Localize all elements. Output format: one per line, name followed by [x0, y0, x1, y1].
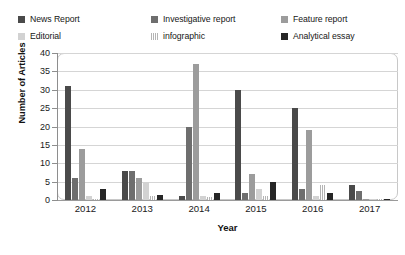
x-axis-tick-label: 2012 — [57, 203, 114, 219]
x-axis-tick-label: 2017 — [341, 203, 398, 219]
bar[interactable] — [122, 171, 128, 200]
bar[interactable] — [157, 195, 163, 201]
y-axis-tick-label: 15 — [6, 140, 50, 150]
legend-label-news-report: News Report — [30, 15, 80, 24]
legend-swatch-investigative-report — [151, 16, 158, 23]
bar[interactable] — [100, 189, 106, 200]
y-axis-tick-label: 25 — [6, 103, 50, 113]
bar-group — [114, 53, 171, 200]
bar[interactable] — [349, 185, 355, 200]
legend-item-infographic[interactable]: infographic — [151, 32, 281, 41]
y-axis-tick — [52, 53, 57, 54]
bar[interactable] — [370, 199, 376, 200]
x-axis-tick-label: 2014 — [171, 203, 228, 219]
bar[interactable] — [320, 185, 326, 200]
legend-item-editorial[interactable]: Editorial — [18, 32, 151, 41]
legend-swatch-infographic — [151, 33, 158, 40]
bar[interactable] — [72, 178, 78, 200]
y-axis-tick — [52, 108, 57, 109]
legend-label-analytical-essay: Analytical essay — [293, 32, 355, 41]
y-axis-tick-label: 0 — [6, 195, 50, 205]
legend-label-editorial: Editorial — [30, 32, 61, 41]
y-axis-tick-label: 20 — [6, 122, 50, 132]
bar[interactable] — [249, 174, 255, 200]
y-axis-title: Number of Articles — [17, 13, 27, 153]
x-axis-tick-label: 2013 — [114, 203, 171, 219]
chart-legend: News Report Investigative report Feature… — [18, 11, 396, 45]
bar[interactable] — [150, 196, 156, 200]
bar[interactable] — [214, 193, 220, 200]
bar[interactable] — [327, 193, 333, 200]
legend-item-feature-report[interactable]: Feature report — [281, 15, 396, 24]
bar-group — [171, 53, 228, 200]
bar[interactable] — [306, 130, 312, 200]
legend-label-investigative-report: Investigative report — [163, 15, 235, 24]
bar[interactable] — [256, 189, 262, 200]
bar-group — [57, 53, 114, 200]
y-axis-tick-label: 30 — [6, 85, 50, 95]
gridline — [57, 200, 398, 201]
y-axis-tick-label: 5 — [6, 177, 50, 187]
bar[interactable] — [384, 199, 390, 200]
legend-label-feature-report: Feature report — [293, 15, 347, 24]
legend-item-analytical-essay[interactable]: Analytical essay — [281, 32, 396, 41]
x-axis-tick-label: 2016 — [284, 203, 341, 219]
y-axis-tick — [52, 71, 57, 72]
bar[interactable] — [143, 182, 149, 200]
x-axis-tick-label: 2015 — [227, 203, 284, 219]
y-axis-tick — [52, 200, 57, 201]
bar[interactable] — [79, 149, 85, 200]
bar[interactable] — [299, 189, 305, 200]
legend-swatch-analytical-essay — [281, 33, 288, 40]
bar-group — [284, 53, 341, 200]
bar[interactable] — [242, 193, 248, 200]
y-axis-tick — [52, 127, 57, 128]
y-axis-tick-label: 10 — [6, 158, 50, 168]
y-axis-tick — [52, 90, 57, 91]
legend-label-infographic: infographic — [163, 32, 205, 41]
y-axis-tick — [52, 163, 57, 164]
y-axis-tick-label: 35 — [6, 66, 50, 76]
bar-group — [341, 53, 398, 200]
x-axis-tick-labels: 201220132014201520162017 — [57, 203, 398, 219]
bar[interactable] — [136, 178, 142, 200]
bar[interactable] — [356, 191, 362, 200]
x-axis-title: Year — [57, 222, 398, 233]
bar[interactable] — [292, 108, 298, 200]
bar[interactable] — [263, 196, 269, 200]
bar[interactable] — [65, 86, 71, 200]
y-axis-tick — [52, 145, 57, 146]
bar[interactable] — [235, 90, 241, 200]
legend-swatch-feature-report — [281, 16, 288, 23]
bar[interactable] — [129, 171, 135, 200]
y-axis-tick — [52, 182, 57, 183]
bar[interactable] — [179, 196, 185, 200]
bar[interactable] — [93, 199, 99, 200]
bar[interactable] — [363, 199, 369, 200]
legend-item-investigative-report[interactable]: Investigative report — [151, 15, 281, 24]
bar[interactable] — [186, 127, 192, 201]
y-axis-tick-label: 40 — [6, 48, 50, 58]
bar[interactable] — [207, 197, 213, 200]
bar[interactable] — [200, 196, 206, 200]
bar[interactable] — [86, 196, 92, 200]
bar[interactable] — [193, 64, 199, 200]
bar-groups — [57, 53, 398, 200]
bar[interactable] — [377, 199, 383, 200]
legend-item-news-report[interactable]: News Report — [18, 15, 151, 24]
bar[interactable] — [313, 196, 319, 200]
bar[interactable] — [270, 182, 276, 200]
bar-chart: News Report Investigative report Feature… — [0, 0, 405, 255]
bar-group — [227, 53, 284, 200]
